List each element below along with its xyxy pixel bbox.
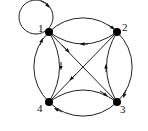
node-label-1: 1 — [38, 22, 44, 34]
node-label-2: 2 — [122, 21, 128, 33]
node-1 — [45, 28, 53, 36]
node-2 — [113, 28, 121, 36]
node-label-3: 3 — [120, 103, 126, 115]
node-label-4: 4 — [37, 102, 43, 114]
directed-graph-diagram: 1 2 3 4 — [0, 0, 148, 131]
edge-3-to-4-outer — [49, 102, 117, 116]
edge-1-to-2-arrowhead — [108, 25, 113, 28]
edge-2-to-4-arrowhead — [71, 74, 76, 79]
node-4 — [45, 98, 53, 106]
edge-1-to-2-outer — [49, 18, 117, 32]
edge-2-to-3-outer — [117, 32, 132, 102]
edge-1-to-3-arrowhead — [62, 45, 68, 51]
edge-3-to-2-inner — [107, 32, 118, 102]
edge-1-to-4-inner — [49, 32, 60, 102]
